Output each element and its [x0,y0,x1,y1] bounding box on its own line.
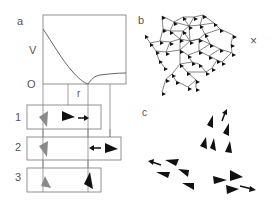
agent-black-icon [226,185,239,194]
arrow-up-icon [222,109,227,121]
agent-black-icon [230,170,243,181]
potential-curve [43,29,126,84]
network-nodes [145,15,237,96]
arrow-left-icon [148,159,161,165]
figure-canvas: a V O r 1 2 3 [0,0,274,206]
panel-c: c [142,107,256,194]
agent-black-icon [156,172,170,178]
agent-black-icon [210,138,216,151]
panel-b: b × [138,14,257,96]
agent-black-icon [178,169,189,177]
panel-b-marker: × [250,34,257,48]
agent-black-icon [207,115,213,128]
origin-label: O [27,78,36,90]
row-label-1: 1 [15,111,21,123]
agent-black-icon [200,137,207,149]
row-label-3: 3 [15,171,21,183]
panel-a-label: a [17,15,24,27]
arrow-right-icon [240,186,256,192]
panel-c-label: c [142,107,147,118]
y-axis-label: V [29,44,37,56]
row-label-2: 2 [15,141,21,153]
panel-a: a V O r 1 2 3 [15,15,126,192]
agent-black-icon [223,123,229,136]
x-axis-label: r [77,88,81,99]
swarm-agents [156,115,243,194]
agent-black-icon [182,183,194,190]
agent-black-icon [225,141,232,153]
panel-b-label: b [138,14,144,26]
agent-black-icon [213,176,227,184]
agent-black-icon [165,159,179,166]
